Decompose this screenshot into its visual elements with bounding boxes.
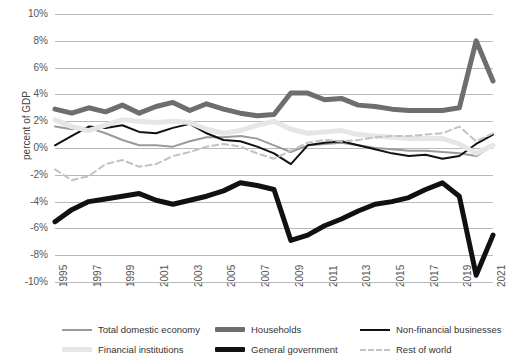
y-axis-tick: 6% bbox=[0, 63, 48, 73]
y-axis-tick: 0% bbox=[0, 143, 48, 153]
legend-label: Financial institutions bbox=[98, 344, 184, 355]
legend-item[interactable]: Financial institutions bbox=[62, 344, 184, 355]
legend-swatch bbox=[215, 347, 245, 352]
legend-label: Households bbox=[251, 324, 301, 335]
y-axis-tick: 4% bbox=[0, 89, 48, 99]
legend-item[interactable]: Rest of world bbox=[360, 344, 451, 355]
y-axis-tick: -8% bbox=[0, 250, 48, 260]
series-line bbox=[55, 41, 493, 116]
y-axis-tick: 10% bbox=[0, 9, 48, 19]
legend-label: Total domestic economy bbox=[98, 324, 200, 335]
legend: Total domestic economyHouseholdsNon-fina… bbox=[0, 322, 502, 363]
legend-swatch bbox=[215, 327, 245, 332]
y-axis-tick: -6% bbox=[0, 223, 48, 233]
legend-item[interactable]: Non-financial businesses bbox=[360, 324, 502, 335]
x-axis-tick: 2021 bbox=[497, 265, 507, 287]
legend-label: General government bbox=[251, 344, 338, 355]
series-line bbox=[55, 127, 493, 156]
legend-swatch bbox=[360, 329, 390, 331]
y-axis-tick: -4% bbox=[0, 197, 48, 207]
series-line bbox=[55, 183, 493, 275]
legend-swatch bbox=[360, 349, 390, 351]
y-axis-tick: -2% bbox=[0, 170, 48, 180]
legend-item[interactable]: General government bbox=[215, 344, 338, 355]
legend-item[interactable]: Total domestic economy bbox=[62, 324, 200, 335]
legend-item[interactable]: Households bbox=[215, 324, 301, 335]
legend-label: Non-financial businesses bbox=[396, 324, 502, 335]
y-axis-tick: 8% bbox=[0, 36, 48, 46]
plot-area bbox=[55, 14, 493, 282]
y-axis-tick: 2% bbox=[0, 116, 48, 126]
legend-label: Rest of world bbox=[396, 344, 451, 355]
y-axis-tick: -10% bbox=[0, 277, 48, 287]
legend-swatch bbox=[62, 347, 92, 352]
series-lines bbox=[55, 14, 493, 282]
gridline bbox=[55, 282, 493, 283]
legend-swatch bbox=[62, 329, 92, 331]
